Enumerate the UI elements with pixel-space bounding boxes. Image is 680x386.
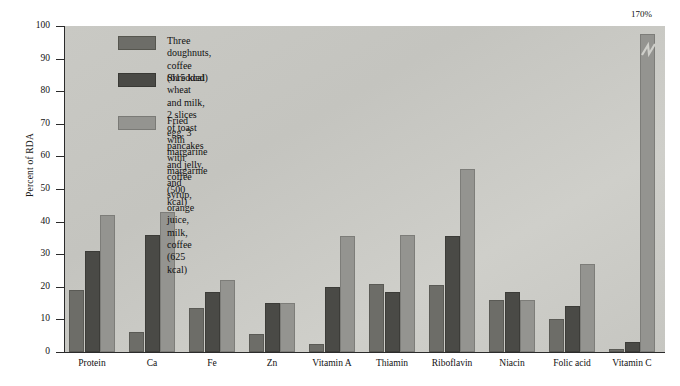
bar-fe-series-2 — [205, 292, 220, 352]
x-axis-tick-label: Folic acid — [553, 358, 591, 368]
bar-thiamin-series-2 — [385, 292, 400, 352]
x-axis-tick-label: Vitamin C — [612, 358, 651, 368]
bar-riboflavin-series-1 — [429, 285, 444, 352]
y-axis-tick — [56, 156, 64, 157]
legend-swatch-series-3 — [118, 116, 156, 130]
y-axis-tick — [56, 222, 64, 223]
bar-vitamin-c-series-2 — [625, 342, 640, 352]
bar-protein-series-3 — [100, 215, 115, 352]
x-axis-tick-label: Zn — [267, 358, 278, 368]
legend-swatch-series-2 — [118, 73, 156, 87]
bar-vitamin-a-series-1 — [309, 344, 324, 352]
y-axis-tick-label: 20 — [10, 282, 50, 292]
y-axis-tick-label: 0 — [10, 347, 50, 357]
bar-riboflavin-series-3 — [460, 169, 475, 352]
y-axis-tick — [56, 319, 64, 320]
bar-niacin-series-1 — [489, 300, 504, 352]
bar-niacin-series-3 — [520, 300, 535, 352]
bar-zn-series-1 — [249, 334, 264, 352]
bar-value-annotation: 170% — [631, 9, 652, 19]
y-axis-tick-label: 40 — [10, 217, 50, 227]
bar-vitamin-a-series-3 — [340, 236, 355, 352]
legend-label-series-3: Fried egg, 3 pancakes with margarine and… — [167, 115, 207, 276]
bar-ca-series-1 — [129, 332, 144, 352]
bar-protein-series-2 — [85, 251, 100, 352]
x-axis-tick-label: Fe — [207, 358, 217, 368]
y-axis-tick — [56, 26, 64, 27]
y-axis-tick — [56, 189, 64, 190]
y-axis-tick — [56, 254, 64, 255]
bar-chart: Percent of RDA 0102030405060708090100 Pr… — [0, 0, 680, 386]
bar-riboflavin-series-2 — [445, 236, 460, 352]
bar-thiamin-series-1 — [369, 284, 384, 352]
y-axis-tick-label: 100 — [10, 21, 50, 31]
x-axis-tick-label: Niacin — [499, 358, 524, 368]
bar-vitamin-c-series-3 — [640, 34, 655, 352]
axis-break-icon — [641, 41, 654, 63]
y-axis-tick — [56, 287, 64, 288]
x-axis-tick-label: Protein — [78, 358, 105, 368]
y-axis-tick-label: 70 — [10, 119, 50, 129]
y-axis-tick-label: 10 — [10, 314, 50, 324]
bar-folic-acid-series-1 — [549, 319, 564, 352]
bar-folic-acid-series-3 — [580, 264, 595, 352]
y-axis-tick — [56, 59, 64, 60]
legend-entry: Fried egg, 3 pancakes with margarine and… — [118, 116, 207, 276]
bar-zn-series-2 — [265, 303, 280, 352]
bar-zn-series-3 — [280, 303, 295, 352]
y-axis-tick-label: 60 — [10, 151, 50, 161]
bar-fe-series-1 — [189, 308, 204, 352]
y-axis-tick-label: 90 — [10, 54, 50, 64]
bar-niacin-series-2 — [505, 292, 520, 352]
y-axis-tick — [56, 91, 64, 92]
y-axis-tick-label: 50 — [10, 184, 50, 194]
y-axis-tick — [56, 352, 64, 353]
bar-vitamin-a-series-2 — [325, 287, 340, 352]
y-axis-tick — [56, 124, 64, 125]
bar-protein-series-1 — [69, 290, 84, 352]
x-axis-tick-label: Thiamin — [376, 358, 408, 368]
bar-vitamin-c-series-1 — [609, 349, 624, 352]
bar-thiamin-series-3 — [400, 235, 415, 352]
bar-folic-acid-series-2 — [565, 306, 580, 352]
x-axis-tick-label: Ca — [147, 358, 158, 368]
legend-swatch-series-1 — [118, 36, 156, 50]
bar-fe-series-3 — [220, 280, 235, 352]
y-axis-tick-label: 80 — [10, 86, 50, 96]
x-axis-tick-label: Vitamin A — [312, 358, 351, 368]
y-axis-tick-label: 30 — [10, 249, 50, 259]
x-axis-tick-label: Riboflavin — [432, 358, 473, 368]
